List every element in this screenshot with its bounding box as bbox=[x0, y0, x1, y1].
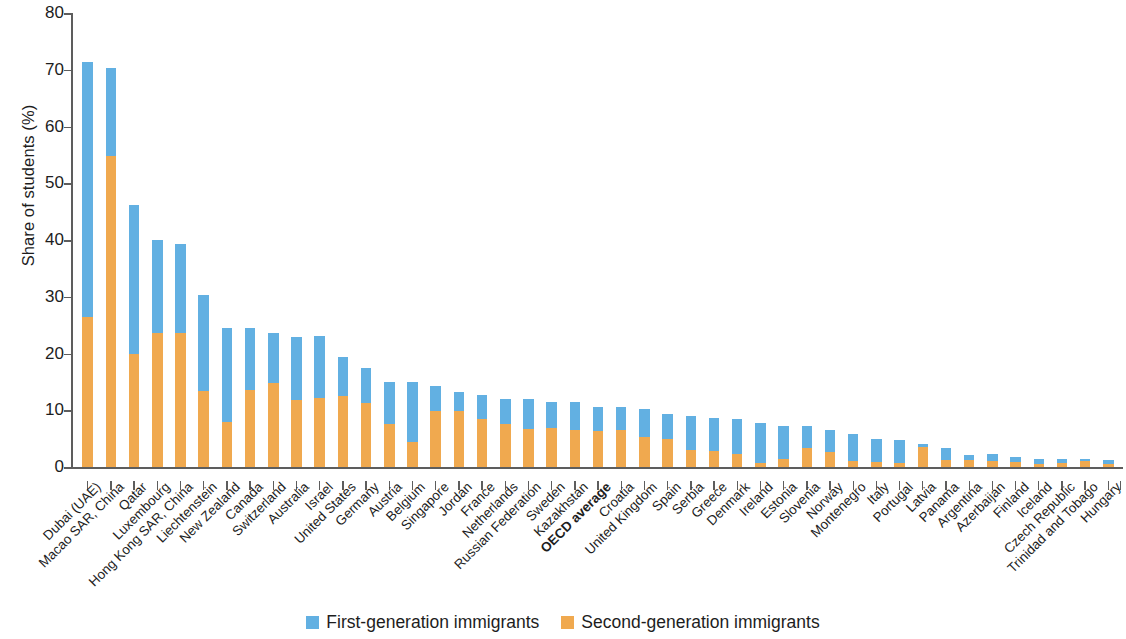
bar-group[interactable] bbox=[268, 13, 279, 467]
bar-segment-second-generation[interactable] bbox=[802, 448, 813, 467]
bar-segment-second-generation[interactable] bbox=[500, 424, 511, 467]
bar-segment-first-generation[interactable] bbox=[686, 416, 697, 450]
bar-segment-second-generation[interactable] bbox=[454, 411, 465, 467]
bar-segment-second-generation[interactable] bbox=[268, 383, 279, 467]
bar-segment-first-generation[interactable] bbox=[593, 407, 604, 431]
bar-segment-second-generation[interactable] bbox=[152, 333, 163, 467]
bar-group[interactable] bbox=[198, 13, 209, 467]
bar-segment-second-generation[interactable] bbox=[662, 439, 673, 467]
bar-group[interactable] bbox=[662, 13, 673, 467]
bar-segment-first-generation[interactable] bbox=[941, 448, 952, 460]
bar-group[interactable] bbox=[639, 13, 650, 467]
bar-segment-second-generation[interactable] bbox=[338, 396, 349, 467]
bar-segment-first-generation[interactable] bbox=[268, 333, 279, 383]
bar-group[interactable] bbox=[338, 13, 349, 467]
bar-segment-second-generation[interactable] bbox=[523, 429, 534, 467]
bar-segment-second-generation[interactable] bbox=[198, 391, 209, 467]
bar-segment-first-generation[interactable] bbox=[477, 395, 488, 419]
legend-item[interactable]: Second-generation immigrants bbox=[561, 612, 819, 633]
bar-segment-second-generation[interactable] bbox=[477, 419, 488, 467]
bar-segment-first-generation[interactable] bbox=[500, 399, 511, 423]
bar-segment-first-generation[interactable] bbox=[894, 440, 905, 463]
bar-group[interactable] bbox=[871, 13, 882, 467]
bar-segment-first-generation[interactable] bbox=[222, 328, 233, 422]
bar-segment-second-generation[interactable] bbox=[616, 430, 627, 467]
bar-group[interactable] bbox=[918, 13, 929, 467]
bar-group[interactable] bbox=[1057, 13, 1068, 467]
bar-group[interactable] bbox=[616, 13, 627, 467]
bar-group[interactable] bbox=[245, 13, 256, 467]
bar-group[interactable] bbox=[848, 13, 859, 467]
bar-segment-first-generation[interactable] bbox=[338, 357, 349, 396]
bar-group[interactable] bbox=[964, 13, 975, 467]
bar-group[interactable] bbox=[361, 13, 372, 467]
bar-group[interactable] bbox=[1010, 13, 1021, 467]
bar-segment-second-generation[interactable] bbox=[732, 454, 743, 467]
bar-segment-first-generation[interactable] bbox=[570, 402, 581, 430]
bar-segment-second-generation[interactable] bbox=[894, 463, 905, 467]
bar-segment-second-generation[interactable] bbox=[964, 460, 975, 467]
bar-group[interactable] bbox=[407, 13, 418, 467]
bar-segment-second-generation[interactable] bbox=[106, 156, 117, 467]
bar-segment-second-generation[interactable] bbox=[384, 424, 395, 467]
bar-segment-second-generation[interactable] bbox=[570, 430, 581, 467]
bar-segment-second-generation[interactable] bbox=[987, 461, 998, 467]
bar-group[interactable] bbox=[778, 13, 789, 467]
bar-segment-first-generation[interactable] bbox=[709, 418, 720, 451]
bar-group[interactable] bbox=[430, 13, 441, 467]
bar-segment-first-generation[interactable] bbox=[245, 328, 256, 390]
bar-segment-first-generation[interactable] bbox=[732, 419, 743, 454]
bar-segment-second-generation[interactable] bbox=[941, 460, 952, 467]
bar-segment-second-generation[interactable] bbox=[778, 459, 789, 468]
bar-segment-second-generation[interactable] bbox=[848, 461, 859, 467]
bar-segment-second-generation[interactable] bbox=[175, 333, 186, 467]
bar-segment-first-generation[interactable] bbox=[1103, 460, 1114, 464]
bar-group[interactable] bbox=[802, 13, 813, 467]
bar-segment-first-generation[interactable] bbox=[454, 392, 465, 411]
bar-segment-first-generation[interactable] bbox=[616, 407, 627, 430]
bar-segment-second-generation[interactable] bbox=[314, 398, 325, 467]
bar-group[interactable] bbox=[222, 13, 233, 467]
bar-segment-first-generation[interactable] bbox=[361, 368, 372, 403]
bar-group[interactable] bbox=[523, 13, 534, 467]
bar-segment-first-generation[interactable] bbox=[1034, 459, 1045, 464]
bar-segment-first-generation[interactable] bbox=[1080, 459, 1091, 461]
bar-segment-first-generation[interactable] bbox=[314, 336, 325, 397]
bar-segment-first-generation[interactable] bbox=[1057, 459, 1068, 463]
bar-segment-first-generation[interactable] bbox=[129, 205, 140, 354]
bar-segment-second-generation[interactable] bbox=[129, 354, 140, 467]
bar-group[interactable] bbox=[755, 13, 766, 467]
bar-group[interactable] bbox=[477, 13, 488, 467]
bar-group[interactable] bbox=[825, 13, 836, 467]
bar-segment-first-generation[interactable] bbox=[825, 430, 836, 452]
bar-segment-second-generation[interactable] bbox=[1080, 461, 1091, 467]
bar-group[interactable] bbox=[546, 13, 557, 467]
bar-segment-first-generation[interactable] bbox=[291, 337, 302, 401]
bar-segment-first-generation[interactable] bbox=[639, 409, 650, 437]
bar-segment-second-generation[interactable] bbox=[871, 462, 882, 467]
bar-group[interactable] bbox=[732, 13, 743, 467]
legend-item[interactable]: First-generation immigrants bbox=[306, 612, 539, 633]
bar-segment-second-generation[interactable] bbox=[918, 447, 929, 467]
bar-group[interactable] bbox=[1034, 13, 1045, 467]
bar-group[interactable] bbox=[291, 13, 302, 467]
bar-group[interactable] bbox=[593, 13, 604, 467]
bar-group[interactable] bbox=[1080, 13, 1091, 467]
bar-segment-second-generation[interactable] bbox=[1057, 463, 1068, 467]
bar-segment-first-generation[interactable] bbox=[964, 455, 975, 460]
bar-group[interactable] bbox=[82, 13, 93, 467]
bar-segment-first-generation[interactable] bbox=[384, 382, 395, 424]
bar-group[interactable] bbox=[152, 13, 163, 467]
bar-group[interactable] bbox=[454, 13, 465, 467]
bar-group[interactable] bbox=[941, 13, 952, 467]
bar-group[interactable] bbox=[175, 13, 186, 467]
bar-group[interactable] bbox=[570, 13, 581, 467]
bar-segment-first-generation[interactable] bbox=[407, 382, 418, 442]
bar-segment-second-generation[interactable] bbox=[361, 403, 372, 467]
bar-segment-first-generation[interactable] bbox=[871, 439, 882, 463]
bar-segment-first-generation[interactable] bbox=[546, 402, 557, 429]
bar-segment-first-generation[interactable] bbox=[198, 295, 209, 391]
bar-segment-second-generation[interactable] bbox=[82, 317, 93, 467]
bar-segment-first-generation[interactable] bbox=[802, 426, 813, 448]
bar-segment-first-generation[interactable] bbox=[152, 240, 163, 333]
